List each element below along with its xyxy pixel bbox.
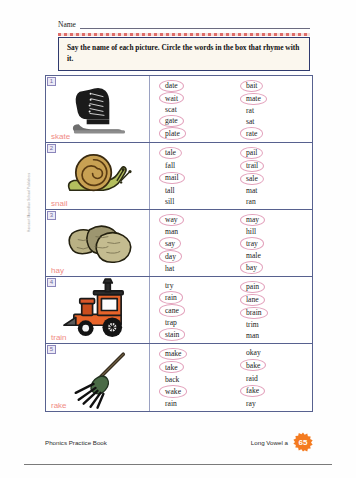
chapter-label: Long Vowel a [251,439,288,446]
footer-right-group: Long Vowel a 65 [251,432,313,452]
word-option[interactable]: cane [159,305,185,316]
word-option[interactable]: trail [240,160,264,171]
word-option[interactable]: way [159,214,184,225]
word-option[interactable]: sill [164,197,175,206]
word-option[interactable]: stain [159,329,185,340]
word-choices: make take back wake rain okay bake raid … [150,344,312,411]
word-option[interactable]: say [159,238,181,249]
word-choices: try rain cane trap stain pain lane brain… [150,277,312,343]
word-option[interactable]: trap [164,318,178,327]
picture-label: hay [51,266,64,275]
word-option[interactable]: bay [240,262,263,273]
page-number: 65 [299,438,308,447]
word-option[interactable]: sat [245,117,255,126]
item-number-badge: 4 [47,278,56,287]
word-column-right: okay bake raid fake ray [231,348,312,408]
table-row: 2 snail tale [46,143,312,210]
decorative-dashed-band [58,33,310,36]
page-footer: Phonics Practice Book Long Vowel a 65 [45,432,313,452]
word-option[interactable]: tall [164,186,176,195]
table-row: 5 rake [46,344,312,411]
word-column-right: bait mate rat sat rate [231,80,312,139]
table-row: 1 [46,76,312,143]
picture-cell: 3 hay [46,210,150,276]
picture-cell: 1 [46,76,150,142]
word-option[interactable]: gate [159,115,184,126]
word-option[interactable]: hat [164,264,175,273]
word-column-left: way man say day hat [150,214,231,273]
word-option[interactable]: plate [159,128,186,139]
word-option[interactable]: fake [240,385,265,396]
name-row: Name [58,20,310,29]
word-option[interactable]: pain [240,281,265,292]
word-option[interactable]: rain [164,399,178,408]
name-write-line[interactable] [80,21,310,29]
book-title: Phonics Practice Book [45,439,107,446]
word-option[interactable]: rain [159,292,183,303]
word-option[interactable]: mate [240,93,267,104]
word-option[interactable]: trim [245,320,260,329]
word-option[interactable]: lane [240,294,265,305]
word-column-right: pain lane brain trim man [231,281,312,340]
picture-label: train [51,333,67,342]
item-number-badge: 2 [47,144,56,153]
name-label: Name [58,20,76,29]
word-option[interactable]: man [164,227,179,236]
item-number-badge: 1 [47,77,56,86]
word-column-right: may hill tray male bay [231,214,312,273]
word-column-right: pail trail sale mat ran [231,147,312,206]
word-option[interactable]: rate [240,128,263,139]
picture-cell: 5 rake [46,344,150,411]
word-option[interactable]: date [159,80,184,91]
word-option[interactable]: scat [164,105,178,114]
worksheet-page: Name Say the name of each picture. Circl… [0,0,356,478]
word-choices: way man say day hat may hill tray male b… [150,210,312,276]
word-option[interactable]: back [164,375,180,384]
word-option[interactable]: mail [159,172,185,183]
word-column-left: date wait scat gate plate [150,80,231,139]
word-option[interactable]: tale [159,147,182,158]
picture-cell: 2 snail [46,143,150,209]
word-option[interactable]: hill [245,227,257,236]
word-option[interactable]: man [245,331,260,340]
word-option[interactable]: sale [240,173,264,184]
word-option[interactable]: bait [240,80,263,91]
word-option[interactable]: ray [245,399,257,408]
page-number-badge: 65 [293,432,313,452]
word-option[interactable]: pail [240,147,263,158]
item-number-badge: 5 [47,345,56,354]
word-option[interactable]: day [159,251,182,262]
picture-label: snail [51,199,67,208]
exercise-table: 1 [45,75,313,412]
word-option[interactable]: ran [245,197,257,206]
item-number-badge: 3 [47,211,56,220]
word-option[interactable]: brain [240,307,268,318]
bottom-divider [24,464,332,465]
table-row: 3 hay way [46,210,312,277]
word-option[interactable]: may [240,214,265,225]
word-option[interactable]: rat [245,106,255,115]
picture-cell: 4 [46,277,150,343]
table-row: 4 [46,277,312,344]
word-choices: date wait scat gate plate bait mate rat … [150,76,312,142]
word-option[interactable]: take [159,361,184,372]
instruction-text: Say the name of each picture. Circle the… [67,43,302,64]
word-option[interactable]: tray [240,238,264,249]
word-option[interactable]: raid [245,374,259,383]
word-option[interactable]: mat [245,186,258,195]
picture-label: skate [51,132,70,141]
word-option[interactable]: okay [245,348,262,357]
word-option[interactable]: bake [240,360,266,371]
word-option[interactable]: wake [159,386,187,397]
picture-label: rake [51,401,67,410]
margin-credit-text: Harcourt Macmillan School Publishers [27,142,31,232]
word-option[interactable]: fall [164,161,176,170]
word-option[interactable]: male [245,251,262,260]
word-option[interactable]: try [164,281,174,290]
word-option[interactable]: wait [159,93,184,104]
word-choices: tale fall mail tall sill pail trail sale… [150,143,312,209]
word-column-left: make take back wake rain [150,348,231,408]
instruction-box: Say the name of each picture. Circle the… [58,37,310,71]
word-column-left: tale fall mail tall sill [150,147,231,206]
word-option[interactable]: make [159,348,187,359]
